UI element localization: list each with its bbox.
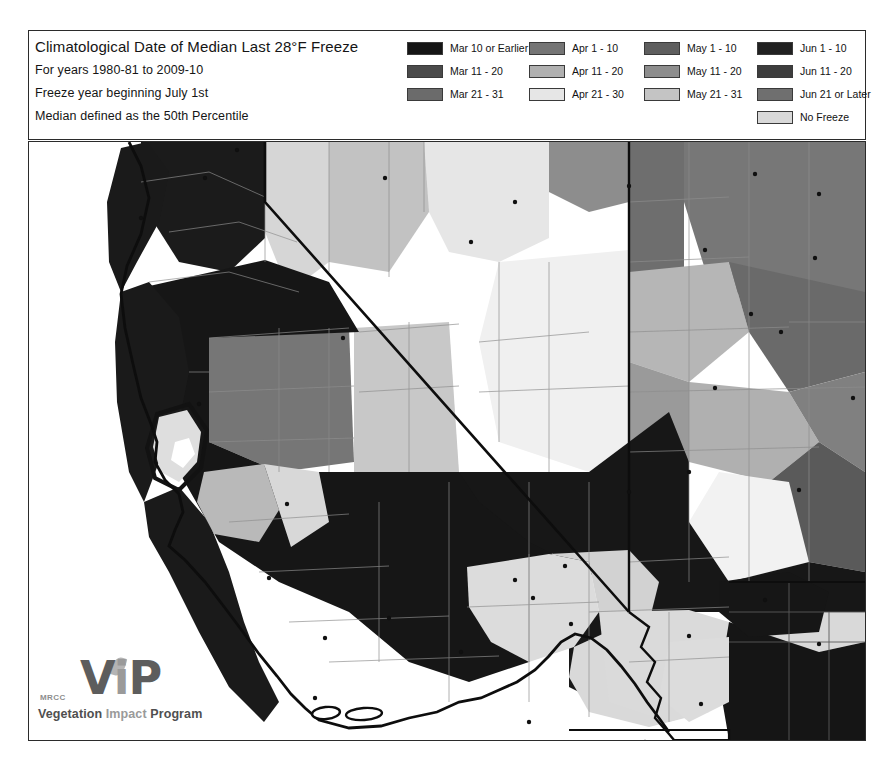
title-subline-method: Median defined as the 50th Percentile <box>35 105 407 128</box>
legend-item: May 11 - 20 <box>644 60 757 83</box>
legend-label: Apr 11 - 20 <box>572 65 623 78</box>
legend-swatch <box>529 42 565 55</box>
legend-label: No Freeze <box>800 111 849 124</box>
legend-item: May 1 - 10 <box>644 37 757 60</box>
legend-item: Mar 21 - 31 <box>407 83 529 106</box>
title-subline-years: For years 1980-81 to 2009-10 <box>35 59 407 82</box>
legend-swatch <box>757 65 793 78</box>
legend-column-may: May 1 - 10 May 11 - 20 May 21 - 31 <box>644 37 757 139</box>
legend-swatch <box>407 65 443 78</box>
legend-item: Apr 1 - 10 <box>529 37 644 60</box>
legend-swatch <box>644 42 680 55</box>
legend-label: May 1 - 10 <box>687 42 737 55</box>
legend-label: May 21 - 31 <box>687 88 742 101</box>
legend-item: Apr 11 - 20 <box>529 60 644 83</box>
legend-swatch <box>407 42 443 55</box>
title-block: Climatological Date of Median Last 28°F … <box>35 35 407 137</box>
map-figure: Climatological Date of Median Last 28°F … <box>0 0 896 764</box>
map-layers <box>29 142 865 740</box>
choropleth-map <box>29 142 865 740</box>
legend-swatch <box>644 65 680 78</box>
legend-item: No Freeze <box>757 106 865 129</box>
legend-swatch <box>757 111 793 124</box>
legend-swatch <box>644 88 680 101</box>
legend-label: Mar 21 - 31 <box>450 88 504 101</box>
legend-column-april: Apr 1 - 10 Apr 11 - 20 Apr 21 - 30 <box>529 37 644 139</box>
legend-item: Mar 11 - 20 <box>407 60 529 83</box>
layer-class-polygons <box>107 142 865 740</box>
legend-item: Mar 10 or Earlier <box>407 37 529 60</box>
legend-column-march: Mar 10 or Earlier Mar 11 - 20 Mar 21 - 3… <box>407 37 529 139</box>
legend-label: May 11 - 20 <box>687 65 742 78</box>
legend-label: Mar 10 or Earlier <box>450 42 528 55</box>
legend-label: Jun 1 - 10 <box>800 42 847 55</box>
title-subline-season: Freeze year beginning July 1st <box>35 82 407 105</box>
legend-swatch <box>407 88 443 101</box>
legend-label: Jun 11 - 20 <box>800 65 852 78</box>
map-canvas <box>28 141 866 741</box>
legend-swatch <box>757 88 793 101</box>
legend-item: Jun 21 or Later <box>757 83 865 106</box>
legend-swatch <box>529 88 565 101</box>
legend-swatch <box>529 65 565 78</box>
page-title: Climatological Date of Median Last 28°F … <box>35 35 407 59</box>
legend-item: Jun 11 - 20 <box>757 60 865 83</box>
legend-item: May 21 - 31 <box>644 83 757 106</box>
legend-label: Apr 21 - 30 <box>572 88 624 101</box>
legend-column-june: Jun 1 - 10 Jun 11 - 20 Jun 21 or Later N… <box>757 37 865 139</box>
legend: Mar 10 or Earlier Mar 11 - 20 Mar 21 - 3… <box>407 32 865 139</box>
legend-item: Apr 21 - 30 <box>529 83 644 106</box>
legend-item: Jun 1 - 10 <box>757 37 865 60</box>
legend-label: Mar 11 - 20 <box>450 65 503 78</box>
header-panel: Climatological Date of Median Last 28°F … <box>28 30 866 140</box>
legend-label: Jun 21 or Later <box>800 88 871 101</box>
legend-label: Apr 1 - 10 <box>572 42 618 55</box>
legend-swatch <box>757 42 793 55</box>
